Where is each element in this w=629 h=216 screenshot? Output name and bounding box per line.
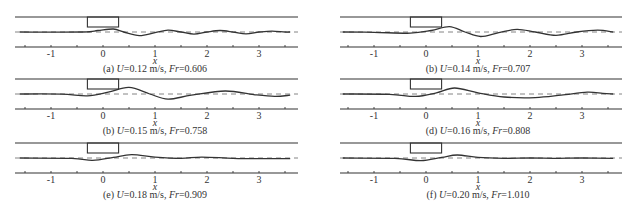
panel-e: -10123x(e) U=0.18 m/s, Fr=0.909: [15, 143, 298, 201]
figure: -10123x(a) U=0.12 m/s, Fr=0.606-10123x(b…: [0, 0, 629, 216]
free-surface-curve: [343, 88, 613, 98]
panel-caption: (d) U=0.16 m/s, Fr=0.808: [426, 125, 531, 137]
obstacle-box: [410, 17, 441, 27]
x-tick-label: -1: [47, 48, 55, 59]
x-tick-label: 3: [580, 110, 585, 121]
x-tick-label: -1: [370, 48, 378, 59]
x-tick-label: 2: [205, 110, 210, 121]
panel-caption: (f) U=0.20 m/s, Fr=1.010: [427, 189, 530, 201]
panel-f: -10123x(f) U=0.20 m/s, Fr=1.010: [340, 143, 622, 201]
panel-b1: -10123x(b) U=0.14 m/s, Fr=0.707: [340, 17, 622, 75]
panel-b2: -10123x(b) U=0.15 m/s, Fr=0.758: [15, 79, 298, 137]
x-tick-label: 0: [101, 174, 106, 185]
obstacle-box: [87, 17, 118, 27]
x-tick-label: 2: [205, 174, 210, 185]
x-tick-label: 3: [580, 174, 585, 185]
x-tick-label: 3: [257, 174, 262, 185]
x-tick-label: 2: [528, 48, 533, 59]
panel-caption: (b) U=0.15 m/s, Fr=0.758: [103, 125, 208, 137]
panel-d: -10123x(d) U=0.16 m/s, Fr=0.808: [340, 79, 622, 137]
obstacle-box: [87, 143, 118, 153]
panel-a: -10123x(a) U=0.12 m/s, Fr=0.606: [15, 17, 298, 75]
obstacle-box: [410, 143, 441, 153]
panel-caption: (e) U=0.18 m/s, Fr=0.909: [103, 189, 207, 201]
x-tick-label: -1: [370, 110, 378, 121]
free-surface-curve: [343, 155, 613, 161]
x-tick-label: 3: [257, 48, 262, 59]
x-tick-label: 2: [528, 174, 533, 185]
x-tick-label: 0: [424, 174, 429, 185]
obstacle-box: [410, 79, 441, 89]
panel-caption: (a) U=0.12 m/s, Fr=0.606: [103, 63, 207, 75]
x-tick-label: -1: [47, 174, 55, 185]
x-tick-label: 3: [257, 110, 262, 121]
x-tick-label: 0: [101, 48, 106, 59]
panel-caption: (b) U=0.14 m/s, Fr=0.707: [426, 63, 531, 75]
x-tick-label: 2: [528, 110, 533, 121]
x-tick-label: 3: [580, 48, 585, 59]
free-surface-curve: [343, 27, 613, 37]
obstacle-box: [87, 79, 118, 89]
x-tick-label: 0: [101, 110, 106, 121]
x-tick-label: -1: [370, 174, 378, 185]
x-tick-label: 0: [424, 110, 429, 121]
x-tick-label: -1: [47, 110, 55, 121]
x-tick-label: 2: [205, 48, 210, 59]
x-tick-label: 0: [424, 48, 429, 59]
free-surface-curve: [20, 87, 290, 99]
